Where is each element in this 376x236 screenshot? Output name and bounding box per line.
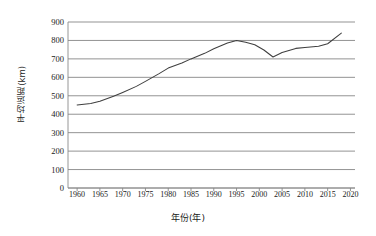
x-axis-tick-label: 1985 (183, 191, 199, 199)
x-axis-tick-label: 1975 (137, 191, 153, 199)
x-axis-tick-label: 1990 (206, 191, 222, 199)
x-axis-tick-label: 1960 (69, 191, 85, 199)
x-axis-tick-labels: 1960196519701975198019851990199520002005… (0, 191, 376, 205)
y-axis-tick-label: 400 (18, 110, 64, 119)
y-axis-tick-label: 300 (18, 128, 64, 137)
x-axis-tick-label: 2010 (297, 191, 313, 199)
x-axis-title: 年份(年) (0, 211, 376, 224)
y-axis-tick-label: 900 (18, 18, 64, 27)
y-axis-tick-label: 100 (18, 165, 64, 174)
x-axis-tick-label: 2015 (320, 191, 336, 199)
x-axis-tick-label: 1995 (229, 191, 245, 199)
chart-container: 平均运距(km) 9008007006005004003002001000 19… (0, 0, 376, 236)
x-axis-tick-label: 2005 (274, 191, 290, 199)
y-axis-tick-label: 500 (18, 92, 64, 101)
x-axis-tick-label: 1970 (115, 191, 131, 199)
x-axis-tick-label: 1965 (92, 191, 108, 199)
y-axis-tick-label: 600 (18, 73, 64, 82)
data-series-line (77, 33, 341, 105)
y-axis-tick-label: 700 (18, 55, 64, 64)
x-axis-tick-label: 2000 (251, 191, 267, 199)
y-axis-tick-label: 200 (18, 147, 64, 156)
y-axis-tick-label: 800 (18, 36, 64, 45)
x-axis-tick-label: 2020 (342, 191, 358, 199)
x-axis-tick-label: 1980 (160, 191, 176, 199)
